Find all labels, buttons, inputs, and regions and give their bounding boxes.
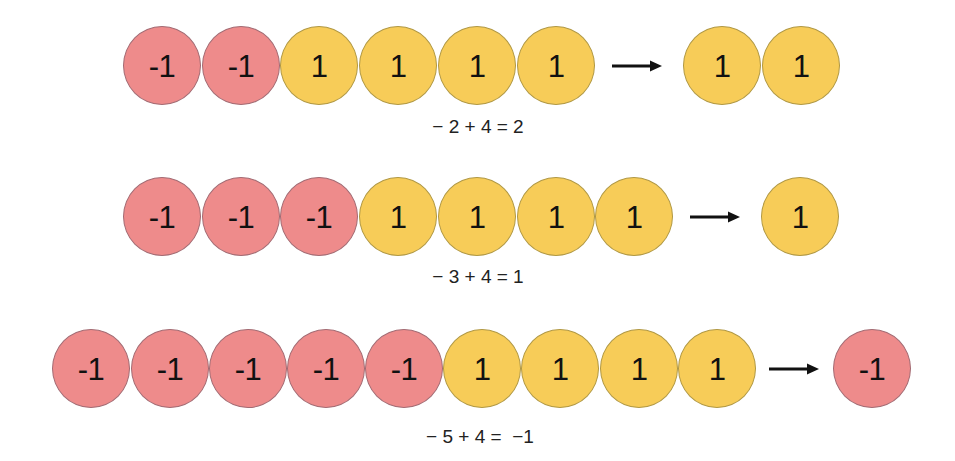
counter-label: -1 bbox=[78, 352, 105, 388]
positive-counter: 1 bbox=[600, 329, 678, 408]
counter-label: -1 bbox=[157, 352, 184, 388]
counter-label: -1 bbox=[313, 352, 340, 388]
positive-counter: 1 bbox=[438, 177, 516, 256]
negative-counter: -1 bbox=[287, 329, 365, 408]
counter-label: 1 bbox=[714, 49, 731, 85]
negative-counter: -1 bbox=[123, 177, 201, 256]
negative-counter: -1 bbox=[52, 329, 130, 408]
negative-counter: -1 bbox=[202, 26, 280, 105]
positive-counter: 1 bbox=[359, 26, 437, 105]
counter-label: 1 bbox=[390, 200, 407, 236]
positive-counter: 1 bbox=[517, 177, 595, 256]
negative-counter: -1 bbox=[202, 177, 280, 256]
result-negative-counter: -1 bbox=[833, 329, 911, 408]
counter-label: 1 bbox=[469, 49, 486, 85]
counter-label: -1 bbox=[149, 200, 176, 236]
counter-label: -1 bbox=[859, 352, 886, 388]
positive-counter: 1 bbox=[438, 26, 516, 105]
counter-label: 1 bbox=[792, 200, 809, 236]
positive-counter: 1 bbox=[521, 329, 599, 408]
counter-label: -1 bbox=[391, 352, 418, 388]
counter-label: 1 bbox=[709, 352, 726, 388]
positive-counter: 1 bbox=[517, 26, 595, 105]
counter-label: 1 bbox=[311, 49, 328, 85]
counter-label: 1 bbox=[548, 49, 565, 85]
right-arrow-icon bbox=[612, 60, 662, 72]
positive-counter: 1 bbox=[359, 177, 437, 256]
right-arrow-icon bbox=[690, 211, 740, 223]
right-arrow-icon bbox=[769, 363, 819, 375]
result-positive-counter: 1 bbox=[683, 26, 761, 105]
positive-counter: 1 bbox=[280, 26, 358, 105]
counter-label: 1 bbox=[793, 49, 810, 85]
counter-label: 1 bbox=[552, 352, 569, 388]
counter-label: -1 bbox=[228, 200, 255, 236]
negative-counter: -1 bbox=[123, 26, 201, 105]
counter-label: -1 bbox=[306, 200, 333, 236]
negative-counter: -1 bbox=[280, 177, 358, 256]
result-positive-counter: 1 bbox=[761, 177, 839, 256]
positive-counter: 1 bbox=[678, 329, 756, 408]
counter-label: 1 bbox=[469, 200, 486, 236]
negative-counter: -1 bbox=[209, 329, 287, 408]
positive-counter: 1 bbox=[443, 329, 521, 408]
equation: − 5 + 4 = −1 bbox=[426, 426, 534, 448]
negative-counter: -1 bbox=[131, 329, 209, 408]
counter-label: 1 bbox=[548, 200, 565, 236]
counter-label: -1 bbox=[235, 352, 262, 388]
positive-counter: 1 bbox=[595, 177, 673, 256]
negative-counter: -1 bbox=[365, 329, 443, 408]
counter-label: -1 bbox=[149, 49, 176, 85]
counter-label: 1 bbox=[474, 352, 491, 388]
result-positive-counter: 1 bbox=[762, 26, 840, 105]
counter-label: 1 bbox=[626, 200, 643, 236]
equation: − 2 + 4 = 2 bbox=[432, 116, 523, 138]
counter-label: 1 bbox=[390, 49, 407, 85]
counter-label: -1 bbox=[228, 49, 255, 85]
equation: − 3 + 4 = 1 bbox=[432, 266, 523, 288]
counter-label: 1 bbox=[631, 352, 648, 388]
zero-pair-diagram: -1 -1 1 1 1 1 1 1 − 2 + 4 = 2 -1 -1 -1 1… bbox=[0, 0, 955, 461]
